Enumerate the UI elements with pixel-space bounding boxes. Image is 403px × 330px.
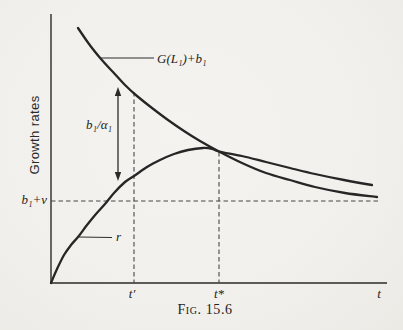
curve-r-leader-line [78, 237, 112, 238]
curve-g [78, 28, 377, 197]
figure-caption: Fig. 15.6 [177, 302, 232, 318]
gap-arrow-down-head [115, 172, 121, 181]
x-axis-label: t [377, 287, 381, 300]
curve-r-label: r [116, 230, 121, 243]
gap-arrow-up-head [115, 87, 121, 96]
curve-r [51, 148, 372, 283]
gap-double-arrow [115, 87, 121, 181]
x-tick-t-star: t* [214, 287, 224, 300]
asymptote-label: b₁+ν [21, 193, 47, 206]
curve-g-label: G(L₁)+b₁ [157, 52, 207, 65]
x-tick-t-prime: t′ [129, 287, 135, 300]
gap-arrow-label: b₁/α₁ [86, 118, 112, 131]
y-axis-label: Growth rates [27, 95, 42, 174]
figure-15-6: Growth rates G(L₁)+b₁ r b₁/α₁ b₁+ν t′ t*… [0, 0, 403, 330]
plot-canvas [0, 0, 403, 330]
